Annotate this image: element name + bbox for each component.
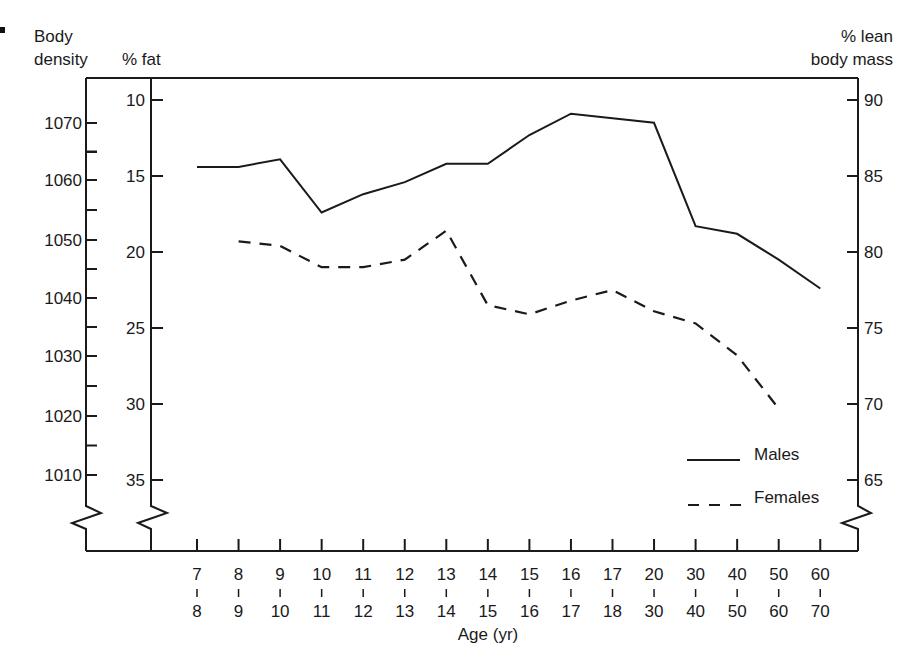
age-tick-label-end: 11 (313, 602, 331, 621)
fat-tick-label: 35 (126, 471, 145, 490)
plot-frame (72, 78, 871, 551)
density-tick-label: 1050 (44, 231, 82, 250)
age-tick-label-end: 50 (728, 602, 747, 621)
age-tick-label-start: 50 (769, 565, 788, 584)
age-tick-label-end: 30 (645, 602, 664, 621)
fat-axis: 101520253035 (126, 91, 163, 490)
lean-tick-label: 90 (864, 91, 883, 110)
x-axis-title: Age (yr) (458, 625, 518, 644)
age-tick-label-end: 8 (192, 602, 201, 621)
age-tick-label-start: 13 (437, 565, 456, 584)
lean-axis-title-line2: body mass (811, 50, 893, 69)
age-tick-label-start: 30 (686, 565, 705, 584)
age-tick-label-start: 11 (354, 565, 372, 584)
density-axis-title-line2: density (34, 50, 88, 69)
density-axis-title-line1: Body (34, 27, 73, 46)
age-tick-label-end: 40 (686, 602, 705, 621)
age-tick-label-end: 70 (811, 602, 830, 621)
density-axis: 1070106010501040103010201010 (44, 114, 97, 485)
age-tick-label-end: 15 (478, 602, 497, 621)
age-tick-label-start: 12 (395, 565, 414, 584)
density-tick-label: 1020 (44, 407, 82, 426)
legend-females-label: Females (754, 488, 819, 507)
figure-bullet (0, 27, 5, 33)
age-tick-label-start: 20 (645, 565, 664, 584)
age-tick-label-start: 17 (603, 565, 622, 584)
series-lines (197, 114, 820, 409)
age-tick-label-end: 12 (354, 602, 373, 621)
lean-tick-label: 75 (864, 319, 883, 338)
lean-tick-label: 70 (864, 395, 883, 414)
fat-tick-label: 10 (126, 91, 145, 110)
lean-tick-label: 65 (864, 471, 883, 490)
legend-males-label: Males (754, 445, 799, 464)
age-tick-label-start: 16 (561, 565, 580, 584)
age-tick-label-start: 7 (192, 565, 201, 584)
age-tick-label-end: 60 (769, 602, 788, 621)
lean-tick-label: 85 (864, 167, 883, 186)
age-tick-label-start: 15 (520, 565, 539, 584)
age-tick-label-start: 8 (234, 565, 243, 584)
age-tick-label-start: 14 (478, 565, 497, 584)
density-tick-label: 1030 (44, 347, 82, 366)
lean-axis: 908580757065 (847, 91, 883, 490)
density-tick-label: 1060 (44, 171, 82, 190)
legend: Males Females (687, 445, 819, 507)
density-tick-label: 1070 (44, 114, 82, 133)
age-tick-label-end: 13 (395, 602, 414, 621)
density-tick-label: 1010 (44, 466, 82, 485)
lean-axis-title-line1: % lean (841, 27, 893, 46)
age-tick-label-start: 40 (728, 565, 747, 584)
density-tick-label: 1040 (44, 289, 82, 308)
age-tick-label-end: 17 (561, 602, 580, 621)
series-females-line (239, 231, 779, 409)
fat-tick-label: 30 (126, 395, 145, 414)
body-composition-chart: Body density % fat % lean body mass 1070… (0, 0, 920, 671)
series-males-line (197, 114, 820, 289)
age-tick-label-end: 16 (520, 602, 539, 621)
age-tick-label-end: 14 (437, 602, 456, 621)
age-tick-label-start: 10 (312, 565, 331, 584)
age-tick-label-end: 10 (271, 602, 290, 621)
age-tick-label-end: 9 (234, 602, 243, 621)
age-tick-label-end: 18 (603, 602, 622, 621)
fat-tick-label: 15 (126, 167, 145, 186)
lean-tick-label: 80 (864, 243, 883, 262)
fat-axis-title: % fat (122, 50, 161, 69)
fat-tick-label: 20 (126, 243, 145, 262)
age-tick-label-start: 9 (275, 565, 284, 584)
age-tick-label-start: 60 (811, 565, 830, 584)
fat-tick-label: 25 (126, 319, 145, 338)
